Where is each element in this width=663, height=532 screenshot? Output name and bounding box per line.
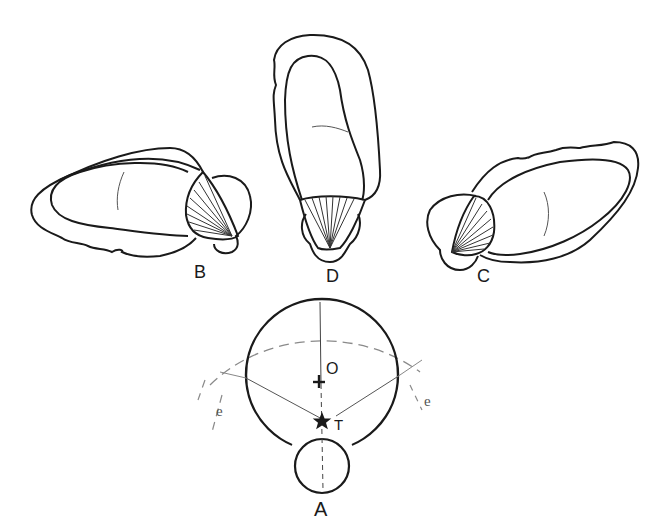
panel-label-a: A (314, 498, 328, 520)
panel-b-drawing (31, 148, 251, 257)
star-icon (313, 412, 332, 429)
panel-c-fan-lines (452, 192, 549, 252)
center-label-o: O (326, 360, 338, 377)
panel-label-c: C (477, 266, 490, 286)
figure-canvas: B D (0, 0, 663, 532)
main-circle (246, 299, 398, 451)
outer-dashed-arc (210, 341, 420, 385)
edge-marker-right (410, 385, 422, 410)
panel-a-schematic (198, 299, 422, 493)
edge-label-left: e (216, 403, 223, 419)
panel-label-d: D (326, 266, 339, 286)
panel-d-drawing (274, 35, 381, 262)
panel-label-b: B (194, 262, 206, 282)
edge-label-right: e (424, 393, 431, 409)
panel-d-fan-lines (305, 126, 354, 248)
panel-b-fan-lines (117, 172, 232, 236)
point-label-t: T (334, 416, 343, 433)
center-cross-icon (313, 375, 325, 388)
radial-line-right (336, 377, 397, 416)
